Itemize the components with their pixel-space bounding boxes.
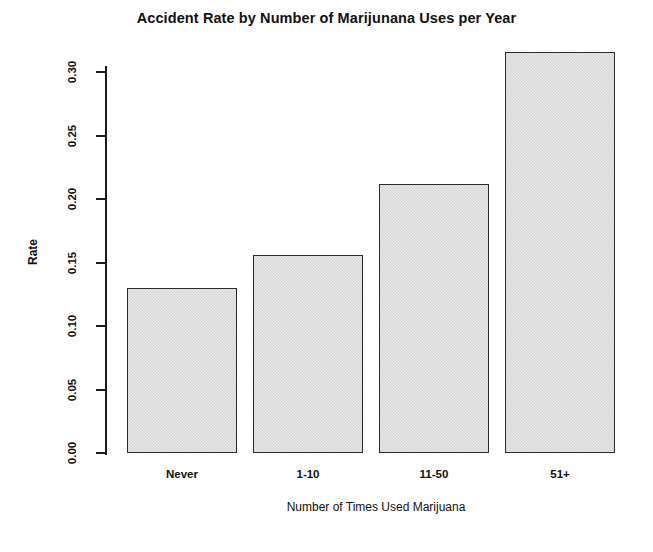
y-axis-tick <box>96 325 106 327</box>
y-axis-title: Rate <box>18 232 48 272</box>
x-axis-tick-label: Never <box>166 468 198 480</box>
y-axis-tick <box>96 452 106 454</box>
bar <box>127 288 237 453</box>
y-axis-tick-label-text: 0.25 <box>66 124 78 146</box>
bar-chart: Accident Rate by Number of Marijunana Us… <box>0 0 653 552</box>
y-axis-tick <box>96 135 106 137</box>
y-axis-tick-label: 0.00 <box>52 446 92 460</box>
plot-area <box>107 45 645 453</box>
y-axis-tick-label: 0.10 <box>52 319 92 333</box>
bar <box>379 184 489 453</box>
y-axis-tick-label: 0.30 <box>52 65 92 79</box>
y-axis-tick <box>96 71 106 73</box>
y-axis-tick-label: 0.25 <box>52 129 92 143</box>
y-axis-tick-label-text: 0.20 <box>66 188 78 210</box>
x-axis-tick-label: 11-50 <box>420 468 449 480</box>
y-axis-tick-label-text: 0.30 <box>66 61 78 83</box>
y-axis-tick-label: 0.20 <box>52 192 92 206</box>
y-axis-tick <box>96 198 106 200</box>
y-axis-tick-label-text: 0.15 <box>66 251 78 273</box>
x-axis-title: Number of Times Used Marijuana <box>107 500 645 514</box>
y-axis-tick-label: 0.15 <box>52 256 92 270</box>
y-axis-tick <box>96 389 106 391</box>
y-axis-tick-label-text: 0.00 <box>66 442 78 464</box>
y-axis-tick <box>96 262 106 264</box>
bar <box>505 52 615 453</box>
y-axis-tick-label-text: 0.05 <box>66 378 78 400</box>
y-axis-tick-label-text: 0.10 <box>66 315 78 337</box>
bar <box>253 255 363 453</box>
x-axis-tick-label: 51+ <box>550 468 570 480</box>
chart-title: Accident Rate by Number of Marijunana Us… <box>0 10 653 26</box>
y-axis-tick-label: 0.05 <box>52 383 92 397</box>
y-axis-title-text: Rate <box>26 239 40 265</box>
x-axis-tick-label: 1-10 <box>296 468 319 480</box>
